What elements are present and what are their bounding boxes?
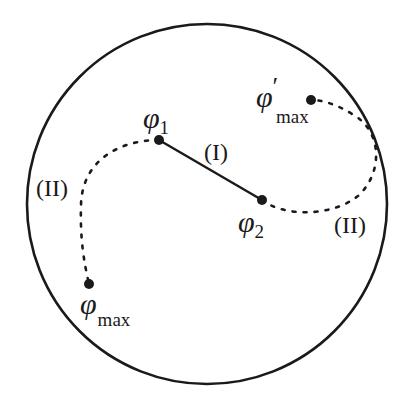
- field-space-diagram: φ1 φ2 φmax φ′ max (I) (II) (II): [0, 0, 409, 403]
- label-phi-max: φmax: [80, 287, 131, 330]
- label-phi-max-prime-subscript: max: [276, 106, 309, 127]
- label-phi2: φ2: [238, 205, 264, 242]
- path-II-left-curve: [81, 140, 159, 284]
- label-phi1: φ1: [143, 101, 169, 138]
- label-path-II-right: (II): [334, 212, 366, 238]
- point-phi-max-prime-dot: [306, 95, 316, 105]
- point-phi2-dot: [257, 195, 267, 205]
- label-path-I: (I): [204, 139, 228, 165]
- label-path-II-left: (II): [36, 175, 68, 201]
- label-phi-max-prime: φ′: [256, 72, 278, 113]
